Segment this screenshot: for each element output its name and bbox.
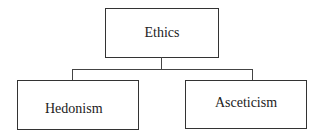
child-node-asceticism: Asceticism [185, 80, 307, 129]
child-node-label: Hedonism [45, 101, 103, 117]
child-node-label: Asceticism [215, 95, 277, 111]
root-node-label: Ethics [145, 25, 180, 41]
connector-stem [161, 57, 162, 69]
connector-left-drop [72, 69, 73, 80]
child-node-hedonism: Hedonism [17, 80, 139, 130]
connector-right-drop [252, 69, 253, 80]
root-node-ethics: Ethics [105, 8, 219, 58]
connector-bar [72, 69, 253, 70]
